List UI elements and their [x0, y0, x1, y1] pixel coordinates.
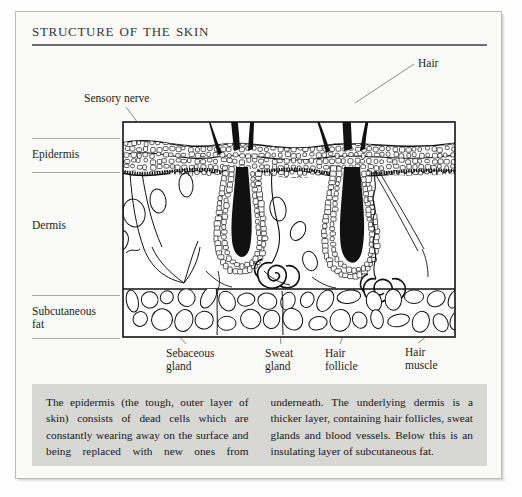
caption-column-1: The epidermis (the tough, outer layer of…: [46, 396, 249, 457]
callout-label-sebaceous-gland: Sebaceous gland: [166, 347, 215, 373]
callout-label-hair-follicle: Hair follicle: [325, 347, 358, 373]
skin-cross-section-diagram: [122, 121, 456, 338]
page-title: Structure of the Skin: [32, 19, 209, 41]
callout-label-sweat-gland: Sweat gland: [265, 347, 293, 373]
title-rule: [32, 44, 487, 46]
divider-below-subcutaneous: [32, 338, 120, 339]
skin-diagram-page: Structure of the Skin Epidermis Dermis S…: [0, 0, 522, 497]
caption-column-2: underneath. The underlying dermis is a t…: [271, 396, 474, 457]
callout-label-hair-muscle: Hair muscle: [405, 346, 438, 372]
page-shadow-right: [502, 14, 505, 482]
callout-label-hair: Hair: [418, 57, 438, 70]
divider-above-epidermis: [32, 138, 120, 139]
layer-label-dermis: Dermis: [32, 219, 66, 232]
layer-label-subcutaneous-fat: Subcutaneous fat: [32, 305, 96, 331]
divider-below-epidermis: [32, 172, 120, 173]
caption-box: The epidermis (the tough, outer layer of…: [32, 384, 487, 466]
page-shadow-bottom: [18, 479, 505, 482]
divider-above-subcutaneous: [32, 295, 120, 296]
hair-follicle-left: [214, 166, 268, 274]
callout-label-sensory-nerve: Sensory nerve: [84, 92, 149, 105]
layer-label-epidermis: Epidermis: [32, 148, 79, 161]
